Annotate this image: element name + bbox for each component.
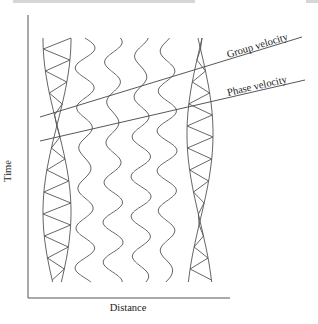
wave-diagram: Group velocity Phase velocity Distance T…	[0, 0, 318, 324]
x-axis-label: Distance	[110, 302, 147, 313]
y-axis-label: Time	[2, 160, 13, 182]
right-carrier	[187, 38, 213, 280]
wave-train	[157, 38, 177, 282]
right-envelope	[187, 38, 212, 282]
wave-train	[131, 38, 151, 282]
wave-group	[43, 38, 213, 282]
group-velocity-label: Group velocity	[225, 31, 289, 60]
left-envelope	[43, 38, 71, 282]
left-envelope	[43, 38, 71, 282]
left-carrier	[43, 38, 71, 280]
wave-train	[103, 38, 123, 282]
wave-train	[75, 38, 95, 282]
phase-velocity-label: Phase velocity	[226, 73, 289, 98]
